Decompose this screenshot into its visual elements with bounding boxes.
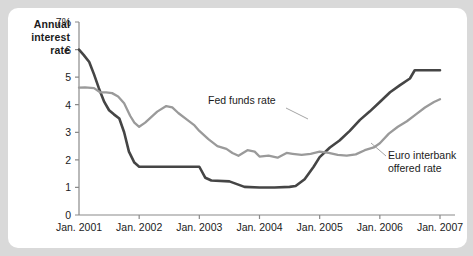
- y-axis-tick-label: 5: [49, 72, 71, 82]
- y-axis-tick-label: 7%: [49, 17, 71, 27]
- x-axis-tick-label: Jan. 2007: [405, 222, 467, 233]
- chart-card: Annual interest rate 7%6543210 Jan. 2001…: [8, 8, 467, 248]
- annotation-euro-interbank-offered-rate: Euro interbank offered rate: [388, 149, 456, 175]
- y-axis-tick-label: 3: [49, 127, 71, 137]
- annotation-euro-line-1: Euro interbank: [388, 149, 456, 162]
- y-axis-tick-label: 2: [49, 155, 71, 165]
- annotation-euro-line-2: offered rate: [388, 162, 456, 175]
- y-axis-tick-label: 0: [49, 210, 71, 220]
- y-axis-tick-label: 1: [49, 182, 71, 192]
- annotation-fed-funds-rate: Fed funds rate: [208, 94, 276, 107]
- y-axis-tick-label: 4: [49, 100, 71, 110]
- leader-line-fed-funds-rate: [286, 108, 308, 119]
- y-axis-tick-label: 6: [49, 45, 71, 55]
- line-chart-plot: [8, 8, 467, 248]
